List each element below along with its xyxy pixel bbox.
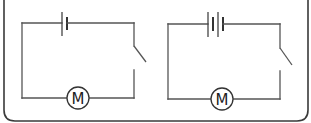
circuit-2: M [168, 12, 292, 110]
switch-open-icon [280, 48, 292, 65]
circuit-diagram-figure: M M [0, 0, 311, 123]
motor-icon: M [211, 88, 233, 110]
battery-icon [62, 12, 67, 36]
switch-open-icon [134, 46, 146, 62]
motor-icon: M [67, 87, 89, 109]
figure-frame [4, 0, 308, 121]
motor-label: M [216, 91, 229, 109]
circuit-1: M [22, 12, 146, 109]
motor-label: M [72, 90, 85, 108]
battery-icon [208, 12, 223, 37]
